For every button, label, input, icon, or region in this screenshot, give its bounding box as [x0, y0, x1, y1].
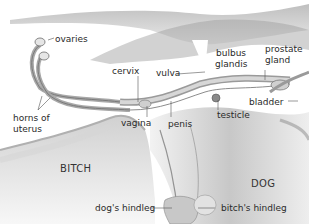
label-prostate: prostate: [265, 44, 303, 54]
label-ovaries: ovaries: [55, 34, 88, 44]
label-penis: penis: [168, 119, 192, 129]
label-bladder: bladder: [249, 97, 283, 107]
label-cervix: cervix: [112, 66, 139, 76]
label-bitch: BITCH: [60, 164, 91, 174]
label-uterus: uterus: [13, 124, 42, 134]
label-horns-of: horns of: [13, 113, 50, 123]
label-vulva: vulva: [156, 68, 180, 78]
label-testicle: testicle: [217, 110, 250, 120]
ovary-icon: [35, 38, 45, 46]
label-gland: gland: [265, 55, 290, 65]
label-dog: DOG: [251, 179, 275, 189]
testicle-icon: [212, 94, 220, 102]
label-bitchs-hindleg: bitch's hindleg: [221, 203, 287, 213]
label-dogs-hindleg: dog's hindleg: [95, 203, 155, 213]
label-glandis: glandis: [215, 59, 247, 69]
label-bulbus: bulbus: [216, 48, 246, 58]
label-vagina: vagina: [121, 118, 151, 128]
anatomy-illustration: [0, 0, 309, 224]
anatomy-diagram: ovaries cervix vulva bulbus glandis pros…: [0, 0, 309, 224]
